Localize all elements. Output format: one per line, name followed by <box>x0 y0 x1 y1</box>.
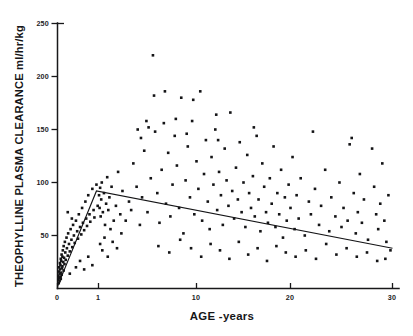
data-point <box>106 176 109 179</box>
data-point <box>107 209 110 212</box>
data-point <box>98 194 101 197</box>
data-point <box>270 202 273 205</box>
data-point <box>208 228 211 231</box>
data-point <box>140 137 143 140</box>
y-tick-label-250: 250 <box>36 19 49 28</box>
data-point <box>203 173 206 176</box>
data-point <box>252 175 255 178</box>
data-point <box>100 181 103 184</box>
data-point <box>121 190 124 193</box>
data-point <box>66 254 69 257</box>
data-point <box>357 211 360 214</box>
data-point <box>145 120 148 123</box>
data-point <box>308 200 311 203</box>
x-axis-tick-labels: 0 1 10 20 30 <box>55 293 396 302</box>
data-point <box>112 219 115 222</box>
data-point <box>247 253 250 256</box>
data-point <box>156 192 159 195</box>
data-point <box>111 241 114 244</box>
data-point <box>193 213 196 216</box>
data-point <box>225 179 228 182</box>
x-tick-label-20: 20 <box>286 293 294 302</box>
data-point <box>186 145 189 148</box>
data-point <box>99 187 102 190</box>
data-point <box>348 143 351 146</box>
data-points-layer <box>57 54 392 285</box>
data-point <box>366 251 369 254</box>
data-point <box>105 202 108 205</box>
data-point <box>173 135 176 138</box>
data-point <box>80 233 83 236</box>
data-point <box>328 230 331 233</box>
data-point <box>312 130 315 133</box>
data-point <box>246 154 249 157</box>
data-point <box>320 205 323 208</box>
data-point <box>75 219 78 222</box>
data-point <box>272 145 275 148</box>
data-point <box>73 234 76 237</box>
data-point <box>84 200 87 203</box>
data-point <box>238 141 241 144</box>
data-point <box>63 263 66 266</box>
data-point <box>124 219 127 222</box>
data-point <box>87 255 90 258</box>
data-point <box>340 226 343 229</box>
data-point <box>227 205 230 208</box>
y-tick-label-50: 50 <box>41 231 49 240</box>
data-point <box>93 216 96 219</box>
data-point <box>289 207 292 210</box>
data-point <box>383 219 386 222</box>
data-point <box>95 183 98 186</box>
data-point <box>265 211 268 214</box>
data-point <box>75 266 78 269</box>
data-point <box>136 128 139 131</box>
data-point <box>64 241 67 244</box>
data-point <box>116 247 119 250</box>
data-point <box>228 258 231 261</box>
data-point <box>86 225 89 228</box>
data-point <box>216 209 219 212</box>
data-point <box>83 229 86 232</box>
data-point <box>244 226 247 229</box>
data-point <box>385 241 388 244</box>
data-point <box>87 194 90 197</box>
data-point <box>89 220 92 223</box>
data-point <box>76 230 79 233</box>
data-point <box>280 168 283 171</box>
data-point <box>334 215 337 218</box>
data-point <box>384 258 387 261</box>
data-point <box>106 255 109 258</box>
data-point <box>119 213 122 216</box>
data-point <box>115 205 118 208</box>
data-point <box>147 126 150 129</box>
data-point <box>376 260 379 263</box>
data-point <box>153 94 156 97</box>
data-point <box>310 213 313 216</box>
data-point <box>303 234 306 237</box>
data-point <box>235 166 238 169</box>
data-point <box>141 196 144 199</box>
data-point <box>199 90 202 93</box>
data-point <box>189 196 192 199</box>
data-point <box>168 251 171 254</box>
x-axis-ticks <box>58 283 393 289</box>
data-point <box>209 243 212 246</box>
data-point <box>62 249 65 252</box>
data-point <box>67 232 70 235</box>
data-point <box>184 179 187 182</box>
data-point <box>338 181 341 184</box>
x-tick-label-1: 1 <box>96 293 100 302</box>
data-point <box>256 247 259 250</box>
data-point <box>62 245 65 248</box>
data-point <box>238 241 241 244</box>
data-point <box>149 177 152 180</box>
data-point <box>210 156 213 159</box>
data-point <box>88 213 91 216</box>
data-point <box>342 207 345 210</box>
data-point <box>297 217 300 220</box>
data-point <box>143 149 146 152</box>
y-axis-title: THEOPHYLLINE PLASMA CLEARANCE ml/hr/kg <box>13 25 25 287</box>
data-point <box>69 250 72 253</box>
data-point <box>389 249 392 252</box>
data-point <box>345 247 348 250</box>
